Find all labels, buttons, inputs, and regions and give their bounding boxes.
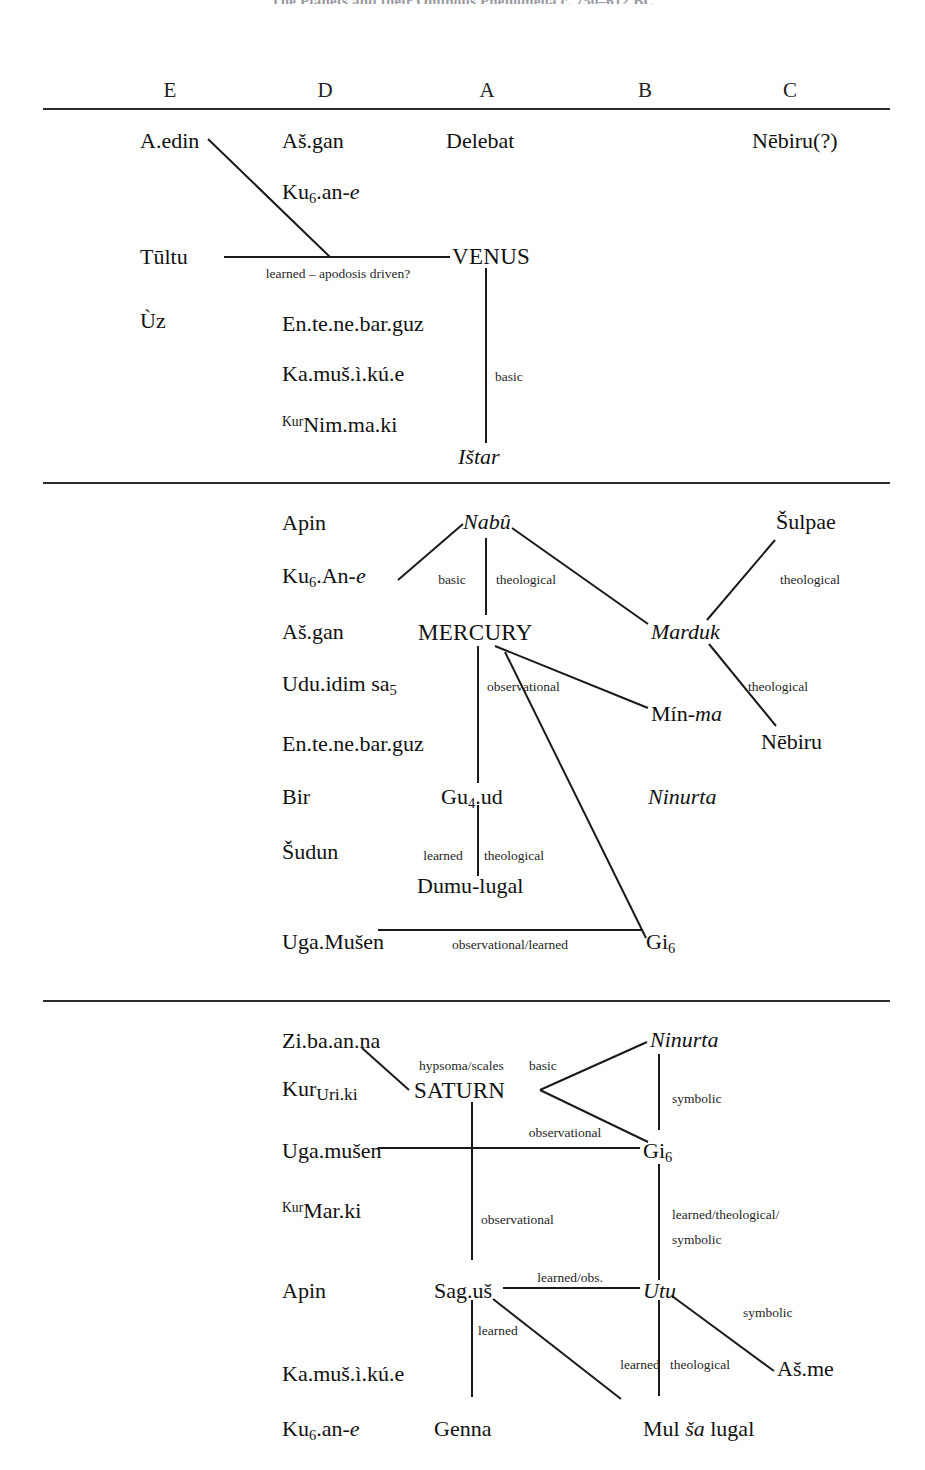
edge-label-learned-theological-symbolic-2: symbolic bbox=[672, 1232, 722, 1248]
node-gu4-ud-text: Gu bbox=[441, 784, 468, 809]
node-udu-idim-sa5[interactable]: Udu.idim sa5 bbox=[282, 673, 397, 697]
edge-label-theological-sulpae: theological bbox=[780, 572, 840, 588]
node-nebiru-mercury[interactable]: Nēbiru bbox=[761, 731, 822, 753]
node-ku6-an-e-saturn-post: .an- bbox=[316, 1416, 350, 1441]
node-gu4-ud-post: .ud bbox=[475, 784, 503, 809]
node-sa-ital: ša bbox=[685, 1416, 705, 1441]
node-ka-mus-i-ku-e-venus[interactable]: Ka.muš.ì.kú.e bbox=[282, 363, 404, 385]
edge-sagus-to-mulsalugal bbox=[493, 1299, 621, 1399]
node-ku6-an-e-venus-text: Ku bbox=[282, 179, 309, 204]
edge-label-theological-nebiru: theological bbox=[748, 679, 808, 695]
node-mercury[interactable]: MERCURY bbox=[418, 621, 533, 644]
node-ku6-an-e-saturn-text: Ku bbox=[282, 1416, 309, 1441]
edge-label-symbolic-asme: symbolic bbox=[743, 1305, 793, 1321]
node-ninurta-mercury[interactable]: Ninurta bbox=[648, 786, 716, 808]
column-header-a: A bbox=[457, 78, 517, 103]
node-saturn[interactable]: SATURN bbox=[414, 1079, 505, 1102]
edge-mercury-to-minma bbox=[495, 646, 648, 708]
node-gi6-saturn[interactable]: Gi6 bbox=[643, 1140, 672, 1164]
node-ku6-an-e-mercury-post: .An- bbox=[316, 563, 356, 588]
node-marduk[interactable]: Marduk bbox=[651, 621, 720, 643]
determinative-kur-uri: Kur bbox=[282, 1076, 316, 1101]
edge-label-basic-venus: basic bbox=[495, 369, 523, 385]
node-ku6-an-e-saturn-ital: e bbox=[350, 1416, 360, 1441]
diagram-page: The Planets and their Ominous Phenomena … bbox=[0, 0, 925, 1470]
edge-label-learned-obs: learned/obs. bbox=[537, 1270, 603, 1286]
node-bir[interactable]: Bir bbox=[282, 786, 310, 808]
node-nim-ma-ki-text: Nim.ma.ki bbox=[303, 412, 397, 437]
node-genna[interactable]: Genna bbox=[434, 1418, 491, 1440]
node-ku6-an-e-mercury-ital: e bbox=[356, 563, 366, 588]
node-en-te-ne-bar-guz-venus[interactable]: En.te.ne.bar.guz bbox=[282, 313, 424, 335]
node-gi6-mercury[interactable]: Gi6 bbox=[646, 931, 675, 955]
node-ku6-an-e-mercury-text: Ku bbox=[282, 563, 309, 588]
edge-label-learned-apodosis: learned – apodosis driven? bbox=[266, 266, 410, 282]
node-ku6-an-e-venus[interactable]: Ku6.an-e bbox=[282, 181, 360, 205]
node-uga-musen-mercury[interactable]: Uga.Mušen bbox=[282, 931, 384, 953]
node-kur-uri-ki[interactable]: KurUri.ki bbox=[282, 1078, 358, 1100]
node-dumu-lugal[interactable]: Dumu-lugal bbox=[417, 875, 523, 897]
node-sag-us[interactable]: Sag.uš bbox=[434, 1280, 492, 1302]
node-ninurta-saturn[interactable]: Ninurta bbox=[650, 1029, 718, 1051]
node-min-ma-ital: ma bbox=[695, 701, 722, 726]
node-zi-ba-an-na[interactable]: Zi.ba.an.na bbox=[282, 1030, 380, 1052]
edge-label-observational-saturn: observational bbox=[481, 1212, 554, 1228]
node-sulpae[interactable]: Šulpae bbox=[776, 511, 836, 533]
edge-label-theological-nabu: theological bbox=[496, 572, 556, 588]
column-header-d: D bbox=[295, 78, 355, 103]
edge-label-theological-mul: theological bbox=[670, 1357, 730, 1373]
edge-label-basic-saturn: basic bbox=[529, 1058, 557, 1074]
determinative-kur-mar: Kur bbox=[282, 1200, 303, 1215]
edge-zibaanna-to-saturn bbox=[362, 1048, 409, 1090]
node-venus[interactable]: VENUS bbox=[452, 245, 530, 268]
node-as-gan-mercury[interactable]: Aš.gan bbox=[282, 621, 344, 643]
edge-label-learned-mul: learned bbox=[620, 1357, 660, 1373]
edge-label-observational-learned: observational/learned bbox=[452, 937, 568, 953]
node-ku6-an-e-venus-post: .an- bbox=[316, 179, 350, 204]
node-as-gan-venus[interactable]: Aš.gan bbox=[282, 130, 344, 152]
section-rule-mercury-saturn bbox=[43, 1000, 890, 1002]
column-header-e: E bbox=[140, 78, 200, 103]
node-a-edin[interactable]: A.edin bbox=[140, 130, 199, 152]
node-tultu[interactable]: Tūltu bbox=[140, 246, 188, 268]
node-apin-saturn[interactable]: Apin bbox=[282, 1280, 326, 1302]
node-ka-mus-i-ku-e-saturn[interactable]: Ka.muš.ì.kú.e bbox=[282, 1363, 404, 1385]
node-kur-nim-ma-ki[interactable]: KurNim.ma.ki bbox=[282, 414, 397, 436]
column-header-b: B bbox=[615, 78, 675, 103]
edge-label-hypsoma-scales: hypsoma/scales bbox=[419, 1058, 504, 1074]
node-sudun[interactable]: Šudun bbox=[282, 841, 338, 863]
node-mul-sa-lugal[interactable]: Mul ša lugal bbox=[643, 1418, 754, 1440]
node-min-ma[interactable]: Mín-ma bbox=[651, 703, 722, 725]
edge-label-symbolic-ninurta: symbolic bbox=[672, 1091, 722, 1107]
node-delebat[interactable]: Delebat bbox=[446, 130, 514, 152]
node-utu[interactable]: Utu bbox=[643, 1280, 676, 1302]
edge-sulpae-to-marduk bbox=[707, 540, 775, 620]
edge-label-observational-mercury: observational bbox=[487, 679, 560, 695]
node-nebiru-uncertain[interactable]: Nēbiru(?) bbox=[752, 130, 838, 152]
edge-label-learned-theological-symbolic-1: learned/theological/ bbox=[672, 1207, 779, 1223]
node-lugal-text: lugal bbox=[705, 1416, 755, 1441]
edge-label-observational-gi6: observational bbox=[529, 1125, 602, 1141]
node-gi6-saturn-text: Gi bbox=[643, 1138, 665, 1163]
page-title: The Planets and their Ominous Phenomena … bbox=[0, 0, 925, 4]
subscript-5: 5 bbox=[390, 682, 397, 698]
node-min-ma-text: Mín- bbox=[651, 701, 695, 726]
node-uz[interactable]: Ùz bbox=[140, 310, 166, 332]
node-udu-idim-text: Udu.idim sa bbox=[282, 671, 390, 696]
node-uri-ki-text: Uri.ki bbox=[316, 1084, 358, 1104]
edge-mercury-to-gi6 bbox=[505, 652, 646, 938]
node-as-me[interactable]: Aš.me bbox=[777, 1358, 834, 1380]
node-apin-mercury[interactable]: Apin bbox=[282, 512, 326, 534]
edge-label-learned-genna: learned bbox=[478, 1323, 518, 1339]
edge-label-basic-mercury: basic bbox=[438, 572, 466, 588]
node-istar[interactable]: Ištar bbox=[458, 446, 500, 468]
node-ku6-an-e-saturn[interactable]: Ku6.an-e bbox=[282, 1418, 360, 1442]
node-en-te-ne-bar-guz-mercury[interactable]: En.te.ne.bar.guz bbox=[282, 733, 424, 755]
edge-label-theological-dumu: theological bbox=[484, 848, 544, 864]
node-ku6-an-e-mercury[interactable]: Ku6.An-e bbox=[282, 565, 366, 589]
node-mul-text: Mul bbox=[643, 1416, 685, 1441]
node-nabu[interactable]: Nabû bbox=[463, 511, 511, 533]
node-gu4-ud[interactable]: Gu4.ud bbox=[441, 786, 503, 810]
node-uga-musen-saturn[interactable]: Uga.mušen bbox=[282, 1140, 382, 1162]
node-kur-mar-ki[interactable]: KurMar.ki bbox=[282, 1200, 361, 1222]
